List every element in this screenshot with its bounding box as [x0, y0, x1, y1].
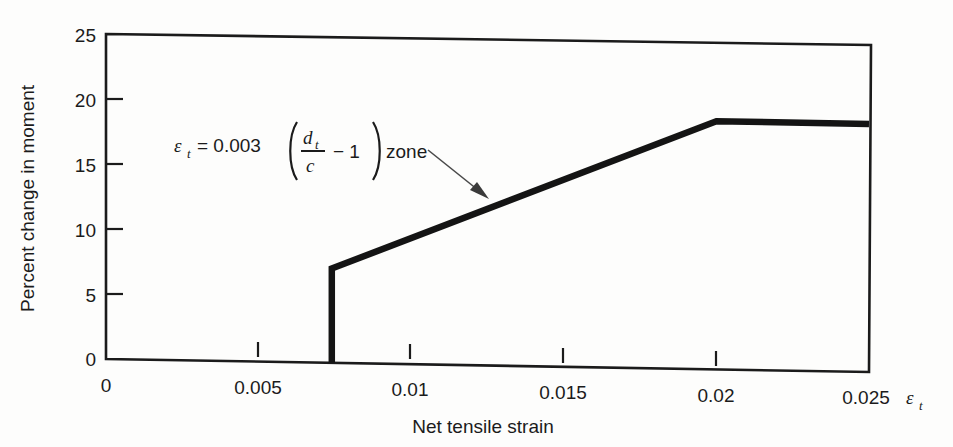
y-tick-label-10: 10 — [75, 220, 96, 241]
figure-container: 25 20 15 10 5 0 Percent change in moment… — [0, 0, 953, 447]
y-tick-label-15: 15 — [75, 155, 96, 176]
plot-frame — [106, 34, 871, 372]
annot-minus-one: − 1 — [333, 141, 360, 162]
y-axis-title: Percent change in moment — [17, 84, 38, 312]
x-tick-labels: 0 0.005 0.01 0.015 0.02 0.025 — [101, 375, 890, 408]
epsilon-t-zone-annotation: ε t = 0.003 d t c − 1 zone — [174, 122, 427, 180]
annot-epsilon-subscript: t — [187, 146, 191, 161]
y-tick-label-5: 5 — [85, 285, 96, 306]
y-tick-label-25: 25 — [75, 25, 96, 46]
x-axis-symbol-epsilon: ε — [906, 387, 914, 408]
x-axis-symbol-subscript: t — [919, 398, 923, 413]
annot-fraction-numerator-subscript: t — [315, 137, 319, 152]
annotation-arrow — [428, 150, 489, 199]
x-tick-label-0025: 0.025 — [842, 387, 890, 408]
x-tick-label-0: 0 — [101, 375, 112, 396]
annot-equals-value: = 0.003 — [197, 135, 261, 156]
annot-zone-label: zone — [386, 141, 427, 162]
y-tick-labels: 25 20 15 10 5 0 — [75, 25, 96, 370]
y-tick-label-0: 0 — [85, 349, 96, 370]
x-axis-title: Net tensile strain — [412, 416, 554, 437]
x-tick-label-0015: 0.015 — [539, 382, 587, 403]
annot-paren-open — [290, 122, 297, 180]
annot-fraction-numerator: d — [303, 127, 313, 148]
y-axis-ticks — [106, 99, 123, 294]
x-tick-label-0005: 0.005 — [234, 377, 282, 398]
x-tick-label-002: 0.02 — [698, 385, 735, 406]
annot-epsilon: ε — [174, 135, 182, 156]
chart-canvas: 25 20 15 10 5 0 Percent change in moment… — [0, 0, 953, 447]
y-tick-label-20: 20 — [75, 90, 96, 111]
annot-fraction-denominator: c — [306, 155, 315, 176]
annotation-arrow-head — [470, 182, 489, 199]
annot-paren-close — [373, 122, 380, 180]
frame-border — [106, 34, 871, 372]
x-tick-label-001: 0.01 — [392, 379, 429, 400]
x-axis-symbol: ε t — [906, 387, 923, 413]
